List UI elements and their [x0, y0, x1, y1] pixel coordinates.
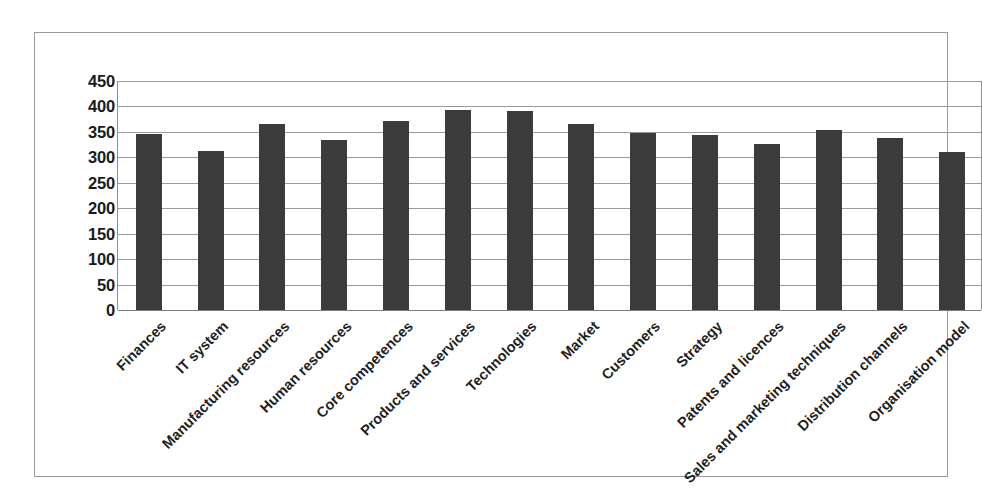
bar	[692, 135, 718, 310]
x-axis-tick-label: Manufacturing resources	[159, 318, 293, 452]
bar	[877, 138, 903, 310]
y-axis-tick-label: 350	[71, 124, 115, 141]
bar	[816, 130, 842, 310]
bar	[630, 133, 656, 310]
y-axis-tick-label: 300	[71, 149, 115, 166]
bar	[321, 140, 347, 310]
x-axis-tick-label: Patents and licences	[674, 318, 787, 431]
x-axis-tick-label: Organisation model	[865, 318, 973, 426]
bar	[259, 124, 285, 310]
x-axis-tick-label: Distribution channels	[794, 318, 910, 434]
bar	[507, 111, 533, 310]
x-axis-category-labels: FinancesIT systemManufacturing resources…	[117, 312, 982, 472]
x-axis-tick-label: Finances	[113, 318, 169, 374]
y-axis-tick-label: 450	[71, 73, 115, 90]
x-axis-tick-label: IT system	[172, 318, 231, 377]
x-axis-tick-label: Strategy	[673, 318, 725, 370]
y-axis-tick-label: 0	[71, 302, 115, 319]
bar	[136, 134, 162, 310]
bar	[198, 151, 224, 310]
y-axis-tick-label: 200	[71, 200, 115, 217]
y-axis-tick-label: 150	[71, 226, 115, 243]
y-axis-tick-label: 100	[71, 251, 115, 268]
x-axis-tick-label: Customers	[599, 318, 664, 383]
gridline	[118, 310, 981, 311]
x-axis-tick-label: Market	[557, 318, 601, 362]
bar	[939, 152, 965, 310]
bar-series	[118, 81, 981, 310]
bar	[383, 121, 409, 310]
y-axis-tick-label: 400	[71, 98, 115, 115]
bar	[568, 124, 594, 310]
y-axis-tick-label: 50	[71, 277, 115, 294]
bar	[445, 110, 471, 311]
bar	[754, 144, 780, 310]
x-axis-tick-label: Products and services	[357, 318, 478, 439]
plot-area	[117, 81, 982, 310]
y-axis: 450400350300250200150100500	[71, 71, 115, 321]
chart-frame: 450400350300250200150100500 FinancesIT s…	[34, 32, 948, 477]
y-axis-tick-label: 250	[71, 175, 115, 192]
